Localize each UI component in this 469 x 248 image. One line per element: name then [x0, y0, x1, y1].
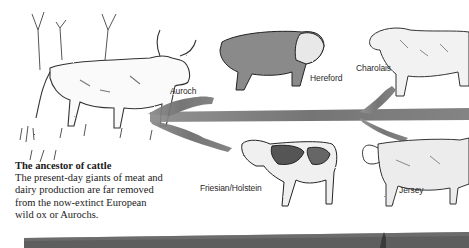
breed-label-charolais: Charolais [356, 63, 391, 73]
breed-label-friesian-holstein: Friesian/Holstein [200, 183, 262, 193]
breed-label-jersey: Jersey [399, 185, 423, 195]
charolais-drawing [370, 28, 469, 96]
breed-label-auroch: Auroch [170, 86, 196, 96]
illustrated-page: Auroch Hereford Charolais Friesian/Holst… [0, 0, 469, 248]
hereford-drawing [220, 31, 324, 90]
grass-sketch [20, 124, 152, 162]
breed-label-hereford: Hereford [310, 73, 342, 83]
caption-title: The ancestor of cattle [15, 160, 165, 172]
caption-block: The ancestor of cattle The present-day g… [15, 160, 165, 222]
friesian-holstein-drawing [242, 140, 337, 206]
jersey-drawing [363, 138, 469, 206]
bottom-lineage-bar [24, 232, 469, 248]
caption-body: The present-day giants of meat and dairy… [15, 172, 165, 222]
